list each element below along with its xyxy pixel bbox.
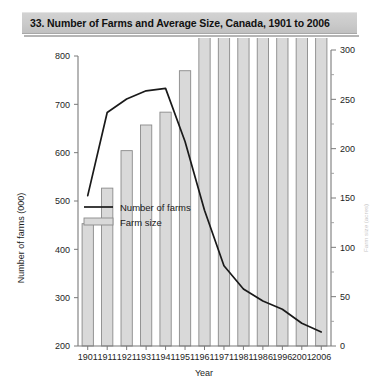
legend-label-farm-size: Farm size xyxy=(120,217,162,228)
bar-1941 xyxy=(160,112,171,346)
bar-1996 xyxy=(277,38,288,346)
bar-2006 xyxy=(316,38,327,346)
right-tick-label-200: 200 xyxy=(340,144,355,154)
right-tick-label-300: 300 xyxy=(340,45,355,55)
x-tick-label-1996: 1996 xyxy=(272,352,292,362)
x-tick-label-1941: 1941 xyxy=(156,352,176,362)
left-tick-label-600: 600 xyxy=(55,148,70,158)
x-tick-label-1971: 1971 xyxy=(214,352,234,362)
x-tick-label-1961: 1961 xyxy=(194,352,214,362)
x-tick-label-2001: 2001 xyxy=(292,352,312,362)
bar-1981 xyxy=(238,38,249,346)
bar-1931 xyxy=(140,125,151,346)
bottom-axis-ticks: 1901191119211931194119511961197119811986… xyxy=(78,346,332,362)
y2-axis-label: Farm size (acres) xyxy=(362,204,369,252)
x-axis-label: Year xyxy=(195,368,213,378)
left-tick-label-400: 400 xyxy=(55,245,70,255)
bar-1901 xyxy=(82,224,93,346)
bar-1986 xyxy=(257,38,268,346)
legend-marker-swatch xyxy=(84,218,113,225)
chart-canvas: 200300400500600700800 050100150200250300… xyxy=(0,38,379,381)
right-tick-label-150: 150 xyxy=(340,193,355,203)
farms-chart: 200300400500600700800 050100150200250300… xyxy=(0,38,379,381)
bar-1921 xyxy=(121,151,132,346)
y-axis-label: Number of farms (000) xyxy=(16,193,26,284)
bar-series-farm-size xyxy=(82,38,327,346)
x-tick-label-1981: 1981 xyxy=(233,352,253,362)
bar-1971 xyxy=(218,38,229,346)
left-tick-label-300: 300 xyxy=(55,293,70,303)
right-axis-ticks: 050100150200250300 xyxy=(331,45,355,351)
x-tick-label-1986: 1986 xyxy=(253,352,273,362)
x-tick-label-1911: 1911 xyxy=(98,352,117,362)
x-tick-label-1951: 1951 xyxy=(175,352,195,362)
x-tick-label-1901: 1901 xyxy=(78,352,98,362)
bar-1911 xyxy=(102,188,113,346)
x-tick-label-1921: 1921 xyxy=(117,352,137,362)
bar-1961 xyxy=(199,38,210,346)
x-tick-label-1931: 1931 xyxy=(136,352,156,362)
x-tick-label-2006: 2006 xyxy=(311,352,331,362)
right-tick-label-50: 50 xyxy=(340,292,350,302)
page-title: 33. Number of Farms and Average Size, Ca… xyxy=(22,17,330,29)
chart-legend: Number of farms Farm size xyxy=(84,202,191,228)
left-tick-label-200: 200 xyxy=(55,341,70,351)
banner-shadow xyxy=(24,35,359,37)
right-tick-label-0: 0 xyxy=(340,341,345,351)
left-tick-label-500: 500 xyxy=(55,196,70,206)
right-tick-label-250: 250 xyxy=(340,95,355,105)
left-axis-ticks: 200300400500600700800 xyxy=(55,51,78,351)
left-tick-label-800: 800 xyxy=(55,51,70,61)
right-tick-label-100: 100 xyxy=(340,243,355,253)
chart-title-banner: 33. Number of Farms and Average Size, Ca… xyxy=(22,12,357,34)
legend-label-number-of-farms: Number of farms xyxy=(120,202,191,213)
bar-2001 xyxy=(296,38,307,346)
left-tick-label-700: 700 xyxy=(55,100,70,110)
